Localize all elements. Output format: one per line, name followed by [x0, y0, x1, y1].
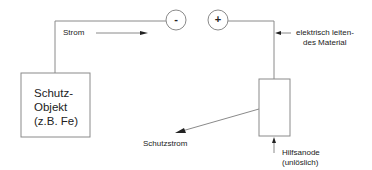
protected-object-label-line3: (z.B. Fe): [34, 114, 78, 128]
protection-current-label: Schutzstrom: [143, 140, 187, 148]
wire-positive: [228, 21, 274, 79]
protected-object-label-line2: Objekt: [34, 100, 67, 114]
negative-terminal-sign: -: [166, 14, 186, 25]
current-arrowhead: [140, 31, 148, 35]
conductor-arrowhead: [275, 31, 281, 35]
anode-label-line1: Hilfsanode: [282, 149, 320, 157]
anode-box: [259, 79, 290, 136]
conductor-label-line1: elektrisch leiten-: [296, 29, 354, 37]
protection-current-arrowhead: [175, 128, 186, 133]
anode-label-line2: (unlöslich): [282, 159, 318, 167]
positive-terminal-sign: +: [208, 14, 228, 25]
protection-current-line: [182, 109, 259, 131]
current-label: Strom: [63, 29, 84, 37]
anode-arrowhead: [272, 137, 276, 143]
protected-object-label-line1: Schutz-: [34, 86, 73, 100]
conductor-label-line2: des Material: [303, 39, 347, 47]
